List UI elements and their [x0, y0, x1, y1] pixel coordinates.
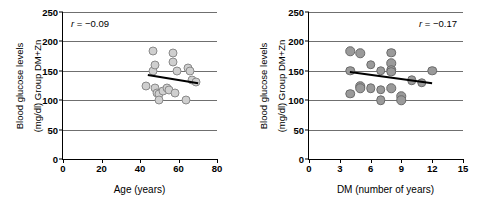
y-axis-title-line2: (mg/dl) Group DM+Zn: [276, 40, 287, 133]
correlation-annotation: r = −0.09: [71, 18, 109, 29]
y-tick-label-100: 100: [270, 95, 309, 106]
y-tick-label-200: 200: [270, 36, 309, 47]
gridline-y-250: [63, 12, 217, 13]
y-axis-title-dm-panel-line2: (mg/dl) Group DM+Zn: [264, 0, 298, 172]
y-tick-label-50: 50: [270, 124, 309, 135]
x-tick-label-3: 3: [337, 159, 342, 174]
y-tick-label-250: 250: [270, 7, 309, 18]
y-tick-label-0: 0: [24, 154, 63, 165]
data-point: [186, 66, 195, 75]
correlation-annotation: r = −0.17: [419, 18, 457, 29]
data-point: [427, 66, 437, 76]
gridline-y-250: [309, 12, 463, 13]
panel-dm: Blood glucose levels (mg/dl) Group DM+Zn…: [244, 0, 487, 206]
data-point: [141, 82, 150, 91]
data-point: [356, 48, 366, 58]
gridline-y-200: [309, 41, 463, 42]
data-point: [172, 66, 181, 75]
y-tick-label-150: 150: [270, 65, 309, 76]
data-point: [155, 96, 164, 105]
data-point: [345, 47, 355, 57]
r-symbol: r: [71, 18, 74, 29]
x-tick-label-80: 80: [212, 159, 223, 174]
x-tick-label-6: 6: [368, 159, 373, 174]
plot-area-dm: 05010015020025003691215r = −0.17: [308, 12, 463, 160]
x-tick-label-9: 9: [399, 159, 404, 174]
y-tick-label-250: 250: [24, 7, 63, 18]
x-axis-title-dm: DM (number of years): [308, 184, 463, 195]
gridline-y-100: [63, 100, 217, 101]
gridline-y-50: [309, 130, 463, 131]
data-point: [376, 85, 386, 95]
r-symbol: r: [419, 18, 422, 29]
plot-area-age: 050100150200250020406080r = −0.09: [62, 12, 217, 160]
x-axis-title-age: Age (years): [62, 184, 217, 195]
data-point: [397, 95, 407, 105]
y-tick-label-200: 200: [24, 36, 63, 47]
y-tick-label-50: 50: [24, 124, 63, 135]
data-point: [168, 49, 177, 58]
r-value: = −0.17: [425, 18, 457, 29]
data-point: [356, 84, 366, 94]
gridline-y-100: [309, 100, 463, 101]
figure-two-scatter-panels: Blood glucose levels (mg/dl) Group DM+Zn…: [0, 0, 487, 206]
data-point: [168, 57, 177, 66]
y-tick-label-0: 0: [270, 154, 309, 165]
x-tick-label-0: 0: [306, 159, 311, 174]
y-tick-label-150: 150: [24, 65, 63, 76]
x-tick-label-12: 12: [427, 159, 438, 174]
x-tick-label-0: 0: [60, 159, 65, 174]
y-axis-title-age-panel-line2: (mg/dl) Group DM+Zn: [20, 0, 54, 172]
data-point: [366, 84, 376, 94]
data-point: [151, 60, 160, 69]
x-tick-label-15: 15: [458, 159, 469, 174]
r-value: = −0.09: [77, 18, 109, 29]
gridline-y-50: [63, 130, 217, 131]
gridline-y-200: [63, 41, 217, 42]
data-point: [345, 89, 355, 99]
x-tick-label-40: 40: [135, 159, 146, 174]
data-point: [386, 48, 396, 58]
data-point: [182, 96, 191, 105]
panel-age: Blood glucose levels (mg/dl) Group DM+Zn…: [0, 0, 243, 206]
data-point: [170, 89, 179, 98]
x-tick-label-20: 20: [96, 159, 107, 174]
data-point: [366, 60, 376, 70]
x-tick-label-60: 60: [173, 159, 184, 174]
y-tick-label-100: 100: [24, 95, 63, 106]
data-point: [386, 84, 396, 94]
data-point: [149, 47, 158, 56]
data-point: [376, 95, 386, 105]
y-axis-title-line2: (mg/dl) Group DM+Zn: [32, 40, 43, 133]
